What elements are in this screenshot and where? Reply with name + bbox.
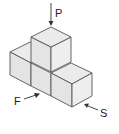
front-view-arrow: F: [14, 93, 40, 107]
front-right-cube: [51, 63, 92, 107]
isometric-cube-diagram: P F S: [0, 0, 119, 134]
side-view-arrow: S: [84, 104, 107, 120]
label-s: S: [100, 107, 107, 119]
label-f: F: [14, 95, 21, 107]
label-p: P: [55, 7, 62, 19]
arrowhead-down-icon: [49, 21, 54, 26]
top-view-arrow: P: [49, 3, 63, 26]
top-cube: [31, 27, 71, 72]
